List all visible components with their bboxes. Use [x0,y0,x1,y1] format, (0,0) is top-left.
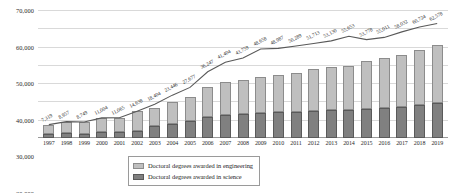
stacked-bar [361,61,372,138]
stacked-bar [238,80,249,138]
bar-segment-science [185,121,196,138]
y-axis-tick-label: 60,000 [16,43,34,50]
bar-segment-engineering [432,45,443,103]
bar-segment-science [167,124,178,138]
bar-segment-science [96,132,107,138]
bar-segment-science [79,134,90,138]
y-axis-tick-label: 20,000 [16,189,34,193]
plot-area: 10,00020,00030,00040,00050,00060,00070,0… [38,10,448,138]
x-axis-tick-label: 2013 [323,140,341,146]
bar-segment-science [414,105,425,138]
stacked-bar [114,118,125,138]
bar-column [411,10,429,138]
bar-segment-science [308,111,319,138]
x-axis-tick-label: 2001 [111,140,129,146]
legend-label-engineering: Doctoral degrees awarded in engineering [148,162,253,169]
bar-segment-engineering [185,97,196,121]
y-axis-tick-label: 50,000 [16,80,34,87]
stacked-bar [149,108,160,138]
bar-segment-science [255,113,266,138]
x-axis-tick-label: 2008 [234,140,252,146]
legend-swatch-engineering [133,163,144,169]
bar-segment-science [326,110,337,138]
stacked-bar [132,111,143,138]
bar-segment-science [114,132,125,138]
bar-column [128,10,146,138]
x-axis-tick-label: 2014 [340,140,358,146]
bar-segment-engineering [61,122,72,134]
bar-segment-science [202,117,213,138]
bar-segment-engineering [379,58,390,109]
bar-column [234,10,252,138]
stacked-bar [308,69,319,138]
x-axis-tick-label: 2017 [393,140,411,146]
bar-segment-science [238,114,249,138]
stacked-bar [79,122,90,138]
bar-column [287,10,305,138]
x-axis-tick-label: 2002 [128,140,146,146]
x-axis-tick-label: 2000 [93,140,111,146]
stacked-bar [96,118,107,138]
stacked-bar [343,66,354,138]
legend-label-science: Doctoral degrees awarded in science [148,173,242,180]
bar-segment-science [61,133,72,138]
stacked-bar [291,73,302,138]
x-axis-tick-label: 1998 [58,140,76,146]
bar-segment-engineering [343,66,354,110]
bar-segment-engineering [273,75,284,113]
x-axis-tick-label: 2018 [411,140,429,146]
x-axis-tick-label: 1997 [40,140,58,146]
stacked-bar [432,45,443,138]
x-axis-tick-label: 2012 [305,140,323,146]
bar-segment-engineering [167,102,178,124]
x-axis-tick-label: 2009 [252,140,270,146]
bar-segment-science [432,103,443,138]
bar-column [164,10,182,138]
stacked-bar [379,58,390,138]
bar-segment-engineering [255,77,266,113]
x-axis-tick-label: 2019 [428,140,446,146]
bar-column [428,10,446,138]
stacked-bar [414,50,425,138]
x-axis-tick-label: 2004 [164,140,182,146]
bar-segment-engineering [396,55,407,107]
bar-segment-science [149,126,160,138]
chart-legend: Doctoral degrees awarded in engineering … [128,156,260,186]
stacked-bar [255,77,266,138]
bar-column [199,10,217,138]
bar-segment-science [220,115,231,138]
bar-segment-science [396,107,407,138]
stacked-bar [167,102,178,138]
bar-column [146,10,164,138]
bar-segment-engineering [291,73,302,112]
bar-segment-engineering [326,67,337,110]
bar-column [305,10,323,138]
legend-swatch-science [133,174,144,180]
bar-segment-engineering [220,82,231,114]
bar-segment-engineering [238,80,249,115]
bar-column [93,10,111,138]
x-axis-tick-label: 1999 [75,140,93,146]
stacked-bar [396,55,407,138]
stacked-bar [43,125,54,138]
bar-column [252,10,270,138]
stacked-bar [326,67,337,138]
y-axis-tick-label: 40,000 [16,116,34,123]
x-axis-tick-label: 2015 [358,140,376,146]
bar-segment-science [291,112,302,138]
y-axis-tick-label: 70,000 [16,7,34,14]
stacked-bar [61,122,72,138]
chart-container: 10,00020,00030,00040,00050,00060,00070,0… [0,0,454,193]
x-axis-tick-label: 2010 [270,140,288,146]
stacked-bar [273,75,284,138]
bar-segment-engineering [308,69,319,111]
bar-segment-science [361,109,372,138]
bar-segment-science [132,131,143,138]
legend-item-engineering: Doctoral degrees awarded in engineering [133,160,253,171]
x-axis-tick-labels: 1997199819992000200120022003200420052006… [38,140,448,146]
legend-item-science: Doctoral degrees awarded in science [133,171,253,182]
bar-segment-engineering [202,87,213,117]
x-axis-tick-label: 2003 [146,140,164,146]
x-axis-tick-label: 2016 [375,140,393,146]
bar-segment-engineering [79,122,90,134]
